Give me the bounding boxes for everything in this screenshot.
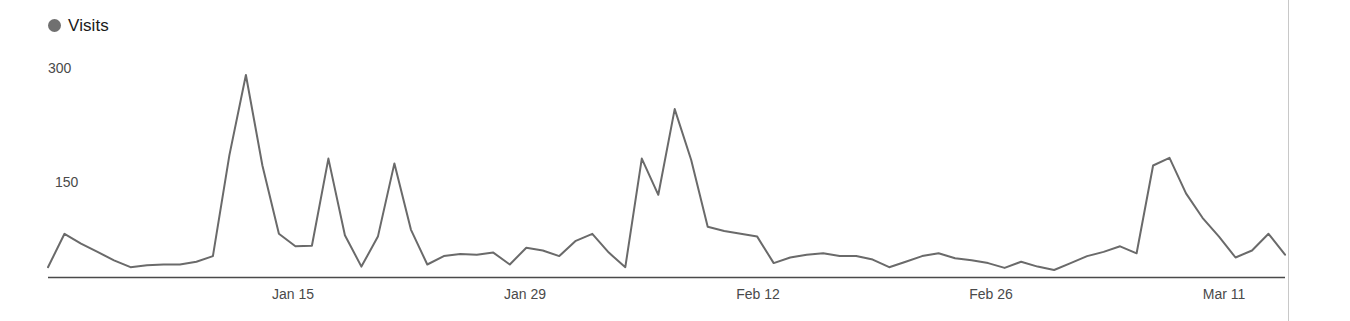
- visits-series-line: [48, 75, 1285, 270]
- visits-chart-panel: Visits 300 150 Jan 15 Jan 29 Feb 12 Feb …: [0, 0, 1350, 321]
- visits-line-plot: [0, 0, 1350, 321]
- panel-right-divider: [1288, 0, 1289, 321]
